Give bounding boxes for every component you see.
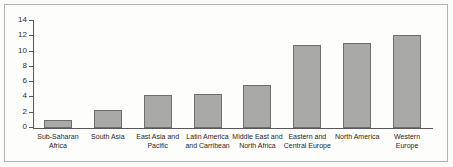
bar [243,85,271,128]
y-axis-tick-label: 14 [18,15,27,24]
bar [94,110,122,128]
bar [343,43,371,128]
plot-area [33,21,432,128]
x-axis-category-label: Sub-Saharan Africa [30,133,86,150]
y-axis-tick-label: 6 [23,76,27,85]
x-axis-category-label: Western Europe [379,133,435,150]
x-axis-line [33,128,433,129]
x-axis-category-label: South Asia [80,133,136,142]
x-axis-category-label: Latin America and Carribean [180,133,236,150]
y-axis-tick-label: 2 [23,107,27,116]
bar [393,35,421,128]
bar [44,120,72,128]
y-axis-tick-label: 0 [23,122,27,131]
x-axis-category-label: North America [329,133,385,142]
x-axis-category-label: Middle East and North Africa [230,133,286,150]
bar [194,94,222,128]
x-axis-category-label: Eastern and Central Europe [279,133,335,150]
y-axis-tick-label: 8 [23,61,27,70]
bar-chart-figure: 02468101214 Sub-Saharan AfricaSouth Asia… [0,0,453,167]
y-axis-tick-label: 12 [18,30,27,39]
bar [144,95,172,128]
bar [293,45,321,128]
y-axis-tick-label: 4 [23,91,27,100]
x-axis-category-label: East Asia and Pacific [130,133,186,150]
y-axis-tick-label: 10 [18,46,27,55]
